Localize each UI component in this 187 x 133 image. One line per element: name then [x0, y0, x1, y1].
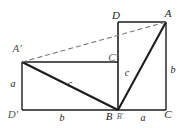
dashed-segment-Aprime-A: [22, 22, 166, 62]
side-label-a-bottom: a: [141, 113, 146, 123]
vertex-label-D: D: [112, 10, 120, 21]
figure-canvas: [0, 0, 187, 133]
vertex-label-C: C: [164, 109, 171, 120]
hypotenuse-B-A: [118, 22, 166, 110]
geometry-figure: D A A' C' D' B B' C a b a b c c: [0, 0, 187, 133]
vertex-label-A: A: [165, 8, 172, 19]
side-label-b-bottom: b: [60, 113, 65, 123]
vertex-label-B-prime: B': [117, 113, 124, 121]
side-label-c-right-hypotenuse: c: [125, 68, 129, 78]
vertex-label-B: B: [106, 111, 113, 122]
vertex-label-C-prime: C': [108, 52, 118, 63]
vertex-label-D-prime: D': [8, 109, 18, 120]
vertex-label-A-prime: A': [12, 43, 21, 54]
side-label-b-right: b: [171, 65, 176, 75]
side-label-a-left: a: [11, 79, 16, 89]
side-label-c-left-hypotenuse: c: [68, 79, 72, 89]
